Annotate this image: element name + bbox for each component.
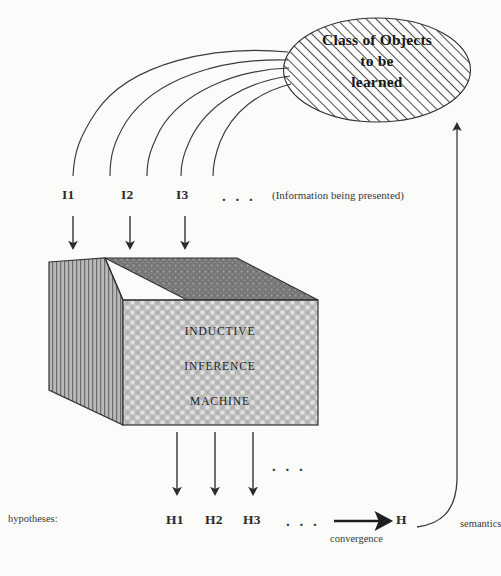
inputs-ellipsis: . . .: [222, 189, 256, 204]
input-label-i2: I2: [121, 188, 134, 202]
output-arrows: [177, 432, 253, 492]
information-being-presented-note: (Information being presented): [272, 190, 404, 201]
input-label-i3: I3: [176, 188, 189, 202]
limit-hypothesis-label: H: [396, 513, 407, 527]
outputs-ellipsis-top: . . .: [272, 459, 306, 474]
hypotheses-ellipsis: . . .: [286, 514, 320, 529]
hypothesis-label-h3: H3: [243, 513, 261, 527]
semantics-label: semantics: [460, 519, 501, 530]
hypotheses-label: hypotheses:: [8, 514, 58, 525]
box-top-face: [105, 258, 318, 300]
ellipse-line-1: Class of Objects: [291, 30, 463, 51]
semantics-feedback-arrow: [417, 126, 457, 527]
input-arrows: [73, 216, 185, 246]
convergence-label: convergence: [330, 534, 383, 545]
hypothesis-label-h1: H1: [166, 513, 184, 527]
box-left-face: [49, 258, 123, 425]
machine-line-1: INDUCTIVE: [125, 325, 315, 337]
information-flow-curves: [73, 50, 291, 176]
class-of-objects-caption: Class of Objects to be learned: [291, 30, 463, 92]
machine-line-3: MACHINE: [125, 395, 315, 407]
machine-text-block: INDUCTIVE INFERENCE MACHINE: [125, 325, 315, 430]
hypothesis-label-h2: H2: [205, 513, 223, 527]
ellipse-line-3: learned: [291, 72, 463, 93]
input-label-i1: I1: [62, 188, 75, 202]
machine-line-2: INFERENCE: [125, 360, 315, 372]
ellipse-line-2: to be: [291, 51, 463, 72]
